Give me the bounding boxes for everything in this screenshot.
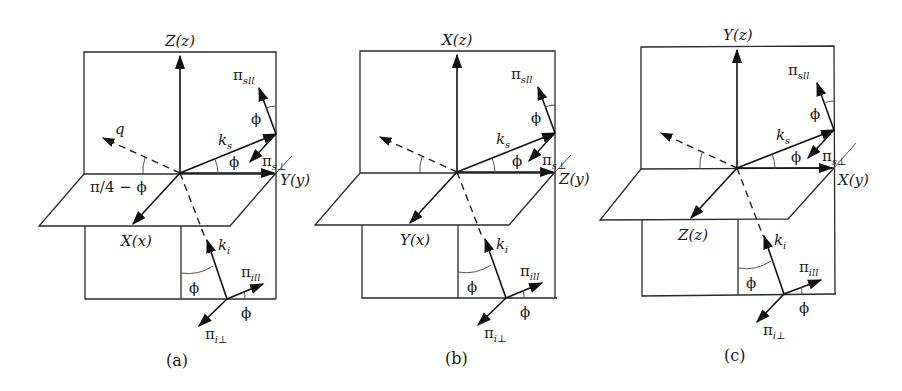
panel-c: Y(z) X(y) Z(z) ks ϕ ϕ πsll πs⊥ ki ϕ πill… — [600, 26, 869, 365]
ks-label-b: ks — [496, 130, 510, 150]
scattering-geometry-figure: Z(z) Y(y) X(x) q π/4 − ϕ ks ϕ ϕ πsll πs⊥… — [0, 0, 902, 391]
pi-s-par-label-a: πsll — [233, 66, 254, 86]
y-axis-label-c: X(y) — [837, 171, 869, 189]
pi-s-par-label-c: πsll — [788, 61, 809, 81]
ks-label-a: ks — [218, 131, 232, 151]
caption-b: (b) — [445, 349, 468, 368]
phi-ki-a: ϕ — [189, 279, 199, 297]
pi-i-perp-label-a: πi⊥ — [205, 325, 227, 345]
y-axis-label-b: Z(y) — [558, 170, 590, 188]
phi-ks-b: ϕ — [512, 152, 522, 170]
phi-ks-a: ϕ — [229, 153, 239, 171]
phi-pis-c: ϕ — [810, 105, 820, 123]
pi-i-perp-b — [478, 298, 506, 325]
x-axis-label-b: Y(x) — [400, 231, 430, 249]
caption-c: (c) — [724, 346, 745, 365]
phi-pii-b: ϕ — [520, 303, 530, 321]
ki-label-c: ki — [774, 231, 786, 251]
phi-ks-c: ϕ — [791, 148, 801, 166]
x-axis-arrow-b — [410, 172, 457, 223]
pi-i-par-label-a: πill — [241, 263, 260, 283]
horizontal-plane-b — [315, 172, 555, 225]
panel-a: Z(z) Y(y) X(x) q π/4 − ϕ ks ϕ ϕ πsll πs⊥… — [39, 32, 310, 370]
q-label-a: q — [115, 120, 125, 138]
pi-i-par-label-c: πill — [799, 258, 818, 278]
x-axis-arrow-c — [691, 168, 737, 218]
caption-a: (a) — [166, 351, 188, 370]
y-axis-label-a: Y(y) — [280, 171, 310, 189]
z-axis-label-c: Y(z) — [723, 26, 753, 44]
horizontal-plane-c — [600, 168, 834, 220]
pi-i-perp-c — [757, 294, 784, 322]
phi-ki-c: ϕ — [746, 274, 756, 292]
q-vector-a — [103, 138, 180, 173]
pi-i-perp-label-b: πi⊥ — [484, 324, 506, 344]
angle-label-a: π/4 − ϕ — [90, 178, 147, 196]
phi-pis-b: ϕ — [531, 109, 541, 127]
phi-pii-c: ϕ — [799, 299, 809, 317]
q-vector-b — [380, 137, 457, 172]
x-axis-label-a: X(x) — [120, 232, 152, 250]
pi-i-parallel-c — [784, 280, 821, 294]
pi-s-perp-label-b: πs⊥ — [542, 151, 566, 171]
z-axis-label-a: Z(z) — [164, 32, 195, 50]
pi-i-par-label-b: πill — [520, 262, 539, 282]
ki-label-a: ki — [218, 236, 230, 256]
ki-label-b: ki — [496, 235, 508, 255]
phi-pis-a: ϕ — [251, 110, 261, 128]
horizontal-plane-a — [39, 173, 276, 226]
pi-s-par-label-b: πsll — [511, 65, 532, 85]
phi-ki-b: ϕ — [467, 278, 477, 296]
pi-i-perp-a — [199, 299, 227, 326]
ks-label-c: ks — [776, 126, 790, 146]
phi-pii-a: ϕ — [241, 304, 251, 322]
z-axis-label-b: X(z) — [441, 31, 472, 49]
pi-s-parallel-a — [259, 88, 276, 134]
q-vector-c — [661, 133, 737, 168]
pi-s-perp-label-a: πs⊥ — [262, 152, 286, 172]
x-axis-label-c: Z(z) — [677, 226, 708, 244]
panel-b: X(z) Z(y) Y(x) ks ϕ ϕ πsll πs⊥ ki ϕ πill… — [315, 31, 590, 368]
pi-i-perp-label-c: πi⊥ — [763, 321, 785, 341]
